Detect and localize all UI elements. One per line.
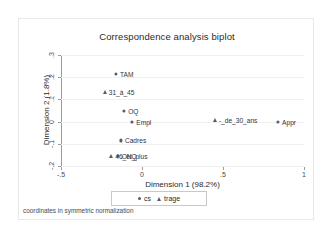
chart-title: Correspondence analysis biplot [19, 31, 315, 42]
legend-item-label: trage [164, 195, 180, 202]
legend-item-cs[interactable]: cs [138, 195, 151, 202]
triangle-marker-icon [213, 118, 217, 122]
data-point-label: 46_et_plus [115, 153, 147, 160]
x-tick-label: .5 [220, 171, 226, 178]
legend-item-label: cs [144, 195, 151, 202]
grid-line [61, 55, 304, 56]
circle-marker-icon [138, 197, 141, 200]
data-point-label: Cadres [125, 137, 146, 144]
x-tick [142, 167, 143, 170]
triangle-marker-icon [109, 154, 113, 158]
chart-legend: cs trage [111, 191, 207, 206]
data-point-label: OQ [128, 107, 138, 114]
data-point-label: Appr [282, 118, 296, 125]
chart-note: coordinates in symmetric normalization [23, 207, 133, 214]
grid-line [61, 99, 304, 100]
x-tick-label: 1 [302, 171, 306, 178]
y-axis-label: Dimension 2 (1.8%) [42, 50, 51, 170]
x-tick-label: -.5 [57, 171, 65, 178]
x-tick-label: 0 [140, 171, 144, 178]
data-point-label: 31_à_45 [109, 88, 135, 95]
data-point-label: -_de_30_ans [219, 117, 258, 124]
x-axis-label: Dimension 1 (98.2%) [61, 180, 304, 189]
triangle-marker-icon [157, 197, 161, 201]
grid-line [61, 77, 304, 78]
x-tick [61, 167, 62, 170]
triangle-marker-icon [103, 90, 107, 94]
legend-item-trage[interactable]: trage [157, 195, 180, 202]
data-point-label: Empl [136, 118, 151, 125]
grid-line [61, 122, 304, 123]
graph-canvas: Correspondence analysis biplot -.50.51 .… [18, 18, 314, 220]
data-point-label: TAM [120, 70, 133, 77]
grid-line [61, 144, 304, 145]
grid-line [61, 166, 304, 167]
y-axis-line [61, 55, 62, 166]
x-tick [304, 167, 305, 170]
x-tick [223, 167, 224, 170]
plot-area [61, 55, 304, 166]
screenshot-root: Correspondence analysis biplot -.50.51 .… [0, 0, 332, 249]
